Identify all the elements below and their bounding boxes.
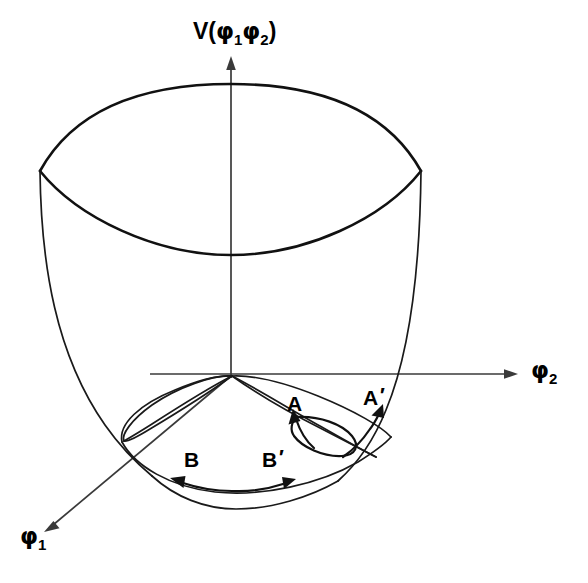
annotation-label-Aprime-text: A <box>363 386 379 409</box>
horizontal-axis-label-sub: 2 <box>549 370 557 387</box>
vertical-axis-label: V(φ1φ2) <box>193 20 276 43</box>
horizontal-axis-label: φ2 <box>531 359 557 382</box>
annotation-A-loop <box>292 417 356 456</box>
annotation-B-group <box>170 476 232 491</box>
figure-canvas <box>0 0 588 583</box>
annotation-label-B-text: B <box>184 448 200 471</box>
depth-axis-line <box>53 375 232 525</box>
potential-surface-figure: V(φ1φ2) φ2 φ1 A A′ B B′ <box>0 0 588 583</box>
annotation-label-A: A <box>287 393 303 414</box>
annotation-A-group <box>289 409 357 456</box>
annotation-label-A-text: A <box>287 392 303 415</box>
horizontal-axis-arrowhead <box>504 369 518 379</box>
central-hump-group <box>123 376 376 457</box>
vertical-axis-arrowhead <box>226 56 236 70</box>
depth-axis-label: φ1 <box>20 525 46 548</box>
annotation-label-Bprime-prime: ′ <box>278 445 284 468</box>
vertical-axis-label-V: V( <box>193 18 216 44</box>
annotation-Bprime-group <box>232 477 296 491</box>
vertical-axis-label-phi1: φ <box>216 18 234 44</box>
horizontal-axis-label-phi: φ <box>531 357 549 383</box>
vertical-axis-label-close: ) <box>269 18 277 44</box>
vertical-axis-label-sub1: 1 <box>234 31 242 48</box>
depth-axis-label-phi: φ <box>20 523 38 549</box>
annotation-label-Bprime-text: B <box>262 448 278 471</box>
annotation-label-Aprime-prime: ′ <box>379 383 385 406</box>
vertical-axis-label-sub2: 2 <box>260 31 268 48</box>
annotation-label-Aprime: A′ <box>363 387 384 408</box>
annotation-label-Bprime: B′ <box>262 449 283 470</box>
depth-axis-label-sub: 1 <box>38 536 46 553</box>
vertical-axis-label-phi2: φ <box>242 18 260 44</box>
annotation-label-B: B <box>184 449 200 470</box>
